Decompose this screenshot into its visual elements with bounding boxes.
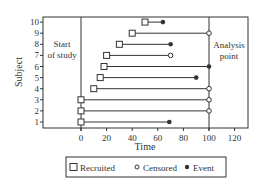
y-tick-label: 10 [30,17,40,27]
x-tick-label: 20 [102,133,112,143]
censored-marker [207,86,212,91]
recruited-marker [91,86,97,92]
recruited-marker [129,30,135,36]
x-tick-label: 100 [202,133,216,143]
legend-label: Censored [143,163,177,173]
recruited-marker [142,19,148,25]
legend-square-icon [70,164,77,171]
subject-line [91,86,212,92]
y-tick-label: 2 [35,106,40,116]
y-tick-label: 4 [35,84,40,94]
legend-label: Event [193,163,214,173]
censored-marker [168,53,173,58]
subject-line [129,30,211,36]
censored-marker [207,31,212,36]
subject-line [78,119,172,125]
x-tick-label: 120 [228,133,242,143]
subject-line [101,64,211,70]
analysis-point-label: point [220,51,239,61]
reference-lines [81,17,209,131]
event-marker [207,64,212,69]
x-axis: 020406080100120 [79,128,242,143]
event-marker [194,75,199,80]
subject-lines [78,19,211,125]
x-axis-label: Time [135,141,156,152]
y-tick-label: 1 [35,117,40,127]
swimmer-chart: 12345678910 020406080100120 Startof stud… [0,0,262,193]
y-tick-label: 3 [35,95,40,105]
legend-filled-circle-icon [185,165,189,169]
recruited-marker [78,97,84,103]
recruited-marker [78,119,84,125]
legend-label: Recruited [80,163,115,173]
start-of-study-label: of study [47,50,77,60]
start-of-study-label: Start [54,39,71,49]
recruited-marker [104,52,110,58]
recruited-marker [97,75,103,81]
annotations: Startof studyAnalysispoint [47,39,245,61]
event-marker [167,120,172,125]
subject-line [78,108,211,114]
y-axis-label: Subject [13,57,24,87]
y-tick-label: 5 [35,73,40,83]
y-tick-label: 8 [35,39,40,49]
subject-line [97,75,198,81]
subject-line [142,19,165,25]
event-marker [168,42,173,47]
x-tick-label: 80 [179,133,189,143]
y-axis: 12345678910 [30,17,43,127]
subject-line [78,97,211,103]
censored-marker [207,109,212,114]
recruited-marker [101,64,107,70]
legend: RecruitedCensoredEvent [66,157,226,177]
y-tick-label: 7 [35,50,40,60]
legend-open-circle-icon [135,165,139,169]
event-marker [161,20,166,25]
x-tick-label: 0 [79,133,84,143]
y-tick-label: 9 [35,28,40,38]
recruited-marker [78,108,84,114]
y-tick-label: 6 [35,62,40,72]
recruited-marker [116,41,122,47]
subject-line [104,52,173,58]
analysis-point-label: Analysis [213,40,245,50]
censored-marker [207,98,212,103]
subject-line [116,41,173,47]
